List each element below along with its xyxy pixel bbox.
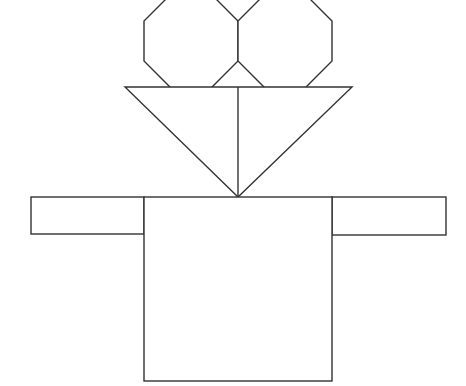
body-square <box>144 197 332 381</box>
left-arm <box>31 197 144 234</box>
right-arm <box>332 197 446 235</box>
right-octagon <box>238 0 332 89</box>
left-octagon <box>144 0 238 89</box>
geometric-figure <box>0 0 466 386</box>
